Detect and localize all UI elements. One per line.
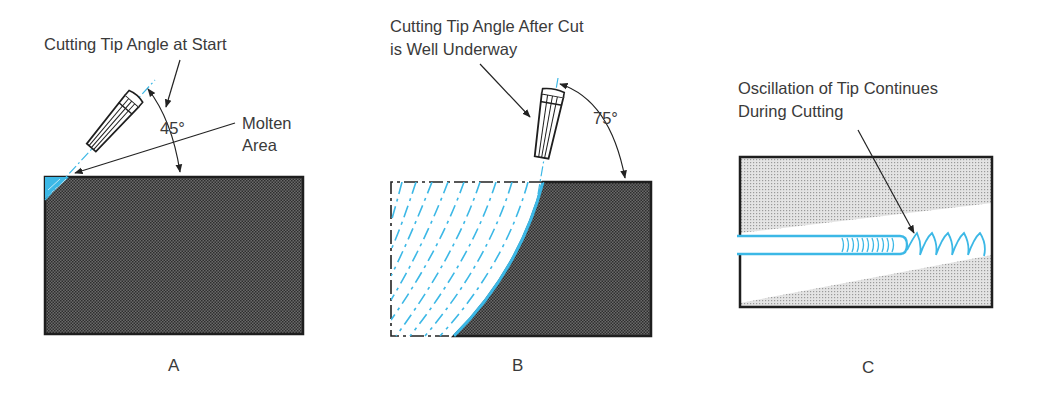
panel-letter-a: A (168, 356, 179, 376)
angle-label-a: 45° (160, 117, 185, 140)
panel-b (391, 64, 651, 336)
caption-a: Cutting Tip Angle at Start (44, 33, 227, 56)
workpiece-b (454, 182, 651, 336)
leader-b-caption (480, 64, 530, 117)
panel-letter-b: B (512, 356, 523, 376)
caption-c-line1: Oscillation of Tip Continues (738, 77, 938, 100)
caption-b-line2: is Well Underway (390, 38, 517, 61)
callout-molten-line1: Molten (242, 112, 292, 135)
cutting-tip-a (85, 89, 144, 153)
kerf (737, 236, 907, 254)
leader-a-caption (166, 60, 180, 107)
callout-molten-line2: Area (242, 134, 277, 157)
angle-arc-b (560, 84, 625, 178)
caption-b-line1: Cutting Tip Angle After Cut (390, 15, 584, 38)
panel-c (737, 130, 992, 307)
cutting-tip-b (531, 87, 565, 159)
panel-letter-c: C (862, 358, 874, 378)
workpiece-a (45, 177, 303, 334)
caption-c-line2: During Cutting (738, 100, 843, 123)
angle-label-b: 75° (593, 107, 618, 130)
diagram-canvas (0, 0, 1039, 393)
panel-a (45, 60, 303, 334)
